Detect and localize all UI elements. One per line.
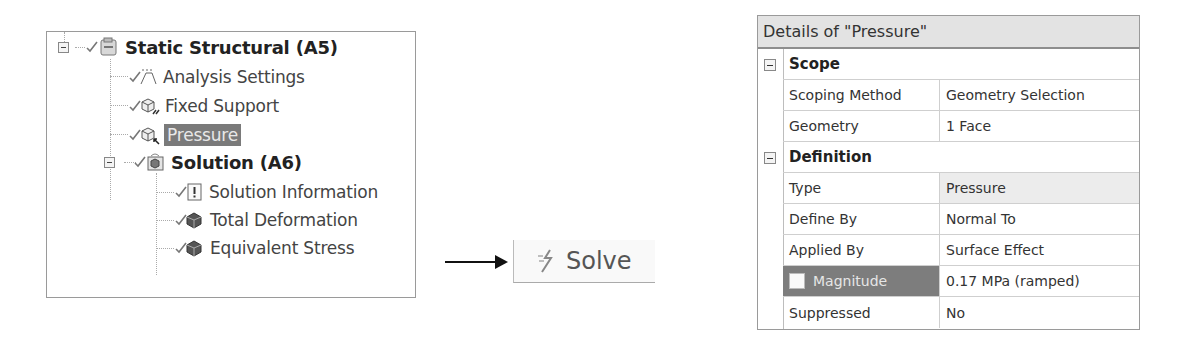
detail-label: Define By	[783, 204, 940, 234]
detail-value[interactable]: 0.17 MPa (ramped)	[940, 266, 1139, 296]
details-panel: Details of "Pressure" Scope Scoping Meth…	[757, 15, 1140, 330]
detail-value[interactable]: Normal To	[940, 204, 1139, 234]
category-label: Scope	[783, 49, 1139, 79]
fixed-support-icon	[138, 96, 160, 116]
detail-value[interactable]: 1 Face	[940, 111, 1139, 141]
details-grid: Scope Scoping Method Geometry Selection …	[758, 49, 1139, 329]
tree-item-equivalent-stress[interactable]: Equivalent Stress	[174, 234, 354, 262]
detail-label: Geometry	[783, 111, 940, 141]
parameter-checkbox[interactable]	[789, 273, 805, 289]
detail-row-scoping-method[interactable]: Scoping Method Geometry Selection	[783, 80, 1139, 111]
detail-value[interactable]: No	[940, 297, 1139, 328]
check-icon	[85, 40, 99, 54]
solution-icon	[145, 152, 165, 172]
solution-information-icon	[184, 182, 204, 202]
details-gutter	[758, 49, 784, 329]
detail-label: Magnitude	[813, 273, 887, 289]
tree-item-solution[interactable]: Solution (A6)	[133, 148, 302, 176]
detail-label: Applied By	[783, 235, 940, 265]
tree-connector	[75, 47, 85, 48]
tree-connector	[110, 134, 128, 135]
tree-item-label: Total Deformation	[210, 210, 358, 230]
solve-button[interactable]: Solve	[513, 240, 655, 283]
equivalent-stress-icon	[184, 238, 204, 258]
solve-lightning-icon	[536, 248, 558, 274]
detail-label: Suppressed	[783, 297, 940, 328]
tree-item-total-deformation[interactable]: Total Deformation	[174, 206, 358, 234]
analysis-settings-icon	[138, 67, 158, 87]
collapse-toggle[interactable]	[104, 157, 115, 168]
detail-row-applied-by[interactable]: Applied By Surface Effect	[783, 235, 1139, 266]
detail-value[interactable]: Geometry Selection	[940, 80, 1139, 110]
arrow-line	[445, 261, 497, 263]
detail-label-cell: Magnitude	[783, 266, 940, 296]
tree-item-label: Static Structural (A5)	[125, 37, 338, 58]
tree-connector	[110, 76, 128, 77]
detail-row-type[interactable]: Type Pressure	[783, 173, 1139, 204]
tree-item-label: Fixed Support	[165, 96, 279, 116]
collapse-toggle[interactable]	[58, 42, 69, 53]
pressure-icon	[138, 125, 160, 145]
detail-value: Pressure	[940, 173, 1139, 203]
tree-item-label: Analysis Settings	[163, 67, 305, 87]
tree-connector	[156, 173, 157, 275]
tree-item-pressure[interactable]: Pressure	[128, 121, 241, 149]
tree-item-label: Pressure	[164, 124, 241, 146]
tree-connector	[110, 59, 111, 200]
tree-item-label: Solution Information	[209, 182, 378, 202]
tree-item-analysis-settings[interactable]: Analysis Settings	[128, 63, 305, 91]
collapse-definition-toggle[interactable]	[764, 152, 776, 164]
category-scope: Scope	[783, 49, 1139, 80]
tree-item-solution-information[interactable]: Solution Information	[174, 178, 378, 206]
detail-row-define-by[interactable]: Define By Normal To	[783, 204, 1139, 235]
tree-connector	[64, 32, 65, 42]
tree-item-fixed-support[interactable]: Fixed Support	[128, 92, 279, 120]
category-definition: Definition	[783, 142, 1139, 173]
detail-label: Scoping Method	[783, 80, 940, 110]
tree-connector	[110, 105, 128, 106]
total-deformation-icon	[184, 210, 204, 230]
detail-label: Type	[783, 173, 940, 203]
detail-value[interactable]: Surface Effect	[940, 235, 1139, 265]
tree-connector	[156, 248, 174, 249]
tree-connector	[156, 192, 174, 193]
details-title: Details of "Pressure"	[758, 16, 1139, 49]
collapse-scope-toggle[interactable]	[764, 59, 776, 71]
detail-row-geometry[interactable]: Geometry 1 Face	[783, 111, 1139, 142]
tree-connector	[156, 220, 174, 221]
outline-tree: Static Structural (A5) Analysis Settings…	[46, 31, 416, 298]
category-label: Definition	[783, 142, 1139, 172]
static-structural-icon	[99, 37, 119, 57]
tree-item-static-structural[interactable]: Static Structural (A5)	[85, 33, 338, 61]
tree-item-label: Equivalent Stress	[210, 238, 354, 258]
tree-item-label: Solution (A6)	[171, 152, 302, 173]
arrow-head-icon	[495, 255, 508, 269]
detail-row-suppressed[interactable]: Suppressed No	[783, 297, 1139, 328]
solve-label: Solve	[566, 247, 632, 275]
detail-row-magnitude[interactable]: Magnitude 0.17 MPa (ramped)	[783, 266, 1139, 297]
